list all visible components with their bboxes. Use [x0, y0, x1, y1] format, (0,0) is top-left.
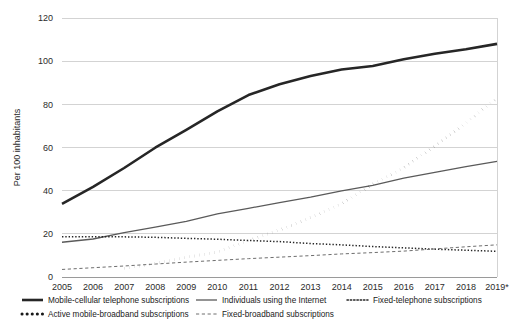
x-tick-label: 2005: [52, 282, 72, 292]
x-tick-label: 2009: [176, 282, 196, 292]
legend-item[interactable]: Mobile-cellular telephone subscriptions: [22, 296, 189, 305]
x-tick-label: 2017: [425, 282, 445, 292]
x-tick-label: 2007: [114, 282, 134, 292]
y-tick-label: 100: [38, 56, 53, 66]
x-tick-label: 2016: [394, 282, 414, 292]
legend-item-label: Mobile-cellular telephone subscriptions: [48, 296, 189, 305]
x-axis-tick-labels: 2005200620072008200920102011201220132014…: [52, 282, 509, 292]
legend-item-label: Active mobile-broadband subscriptions: [48, 310, 189, 319]
x-tick-label: 2015: [363, 282, 383, 292]
y-axis-title: Per 100 inhabitants: [12, 108, 22, 186]
y-tick-label: 120: [38, 13, 53, 23]
x-tick-label: 2013: [301, 282, 321, 292]
y-tick-label: 20: [43, 229, 53, 239]
y-tick-label: 40: [43, 186, 53, 196]
x-tick-label: 2014: [332, 282, 352, 292]
x-tick-label: 2008: [145, 282, 165, 292]
x-tick-label: 2011: [239, 282, 258, 292]
x-tick-label: 2006: [83, 282, 103, 292]
x-tick-label: 2018: [456, 282, 476, 292]
x-tick-label: 2019*: [485, 282, 509, 292]
y-tick-label: 80: [43, 100, 53, 110]
x-tick-label: 2010: [207, 282, 227, 292]
chart-container: 120100806040200 200520062007200820092010…: [0, 0, 512, 334]
line-chart: 120100806040200 200520062007200820092010…: [0, 0, 512, 334]
x-tick-label: 2012: [269, 282, 289, 292]
legend-item-label: Fixed-telephone subscriptions: [373, 296, 482, 305]
legend-item-label: Fixed-broadband subscriptions: [222, 310, 334, 319]
y-tick-label: 60: [43, 143, 53, 153]
legend-item-label: Individuals using the Internet: [222, 296, 327, 305]
